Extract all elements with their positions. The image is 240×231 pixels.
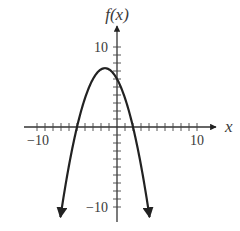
y-tick-label-min: −10 <box>86 200 108 215</box>
y-axis <box>113 26 121 222</box>
y-tick-label-max: 10 <box>94 40 108 55</box>
function-graph: f(x) x −10 10 10 −10 <box>0 0 240 231</box>
x-tick-label-min: −10 <box>27 133 49 148</box>
parabola-curve <box>60 68 149 217</box>
x-tick-label-max: 10 <box>190 133 204 148</box>
x-axis-label: x <box>224 117 233 136</box>
x-axis <box>24 123 216 131</box>
y-axis-label: f(x) <box>105 5 129 24</box>
